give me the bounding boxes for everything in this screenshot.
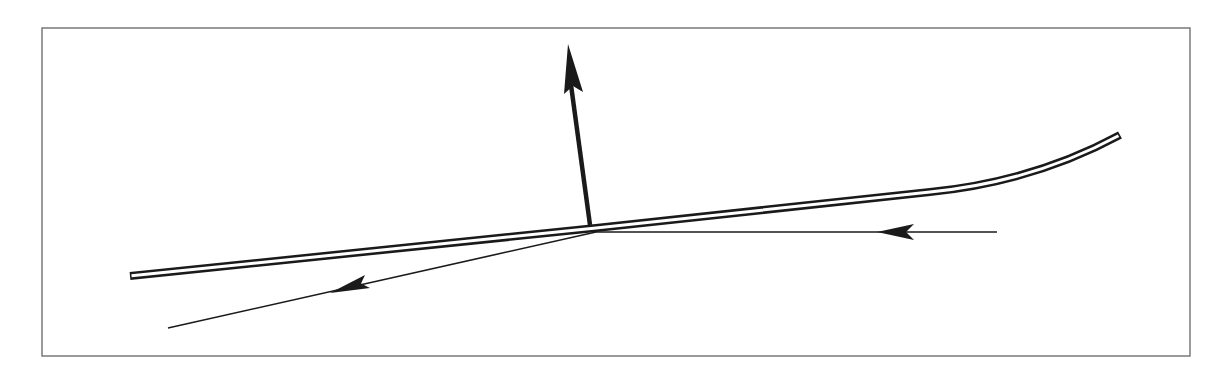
diagram-frame (42, 28, 1190, 356)
reflection-diagram (0, 0, 1232, 373)
